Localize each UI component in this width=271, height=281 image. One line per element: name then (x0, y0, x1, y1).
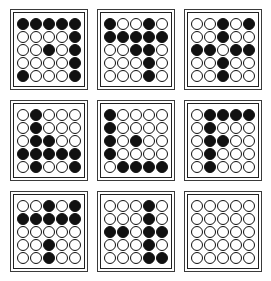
dot-cell[interactable] (17, 238, 30, 251)
dot-cell[interactable] (56, 147, 69, 160)
dot-cell[interactable] (243, 212, 256, 225)
dot-cell[interactable] (17, 30, 30, 43)
dot-cell[interactable] (117, 251, 130, 264)
dot-cell[interactable] (204, 56, 217, 69)
dot-cell[interactable] (30, 121, 43, 134)
dot-cell[interactable] (243, 134, 256, 147)
dot-cell[interactable] (243, 30, 256, 43)
dot-cell[interactable] (130, 251, 143, 264)
dot-cell[interactable] (30, 134, 43, 147)
dot-cell[interactable] (43, 212, 56, 225)
dot-cell[interactable] (230, 56, 243, 69)
dot-cell[interactable] (204, 43, 217, 56)
dot-cell[interactable] (143, 134, 156, 147)
panel-9[interactable] (184, 191, 262, 272)
dot-cell[interactable] (217, 108, 230, 121)
dot-cell[interactable] (191, 43, 204, 56)
dot-cell[interactable] (69, 199, 82, 212)
dot-cell[interactable] (143, 225, 156, 238)
dot-cell[interactable] (56, 30, 69, 43)
dot-cell[interactable] (143, 69, 156, 82)
dot-cell[interactable] (56, 134, 69, 147)
dot-cell[interactable] (56, 238, 69, 251)
dot-cell[interactable] (17, 199, 30, 212)
dot-cell[interactable] (17, 43, 30, 56)
dot-cell[interactable] (17, 69, 30, 82)
dot-cell[interactable] (191, 212, 204, 225)
dot-cell[interactable] (217, 134, 230, 147)
dot-cell[interactable] (117, 121, 130, 134)
dot-cell[interactable] (104, 225, 117, 238)
dot-cell[interactable] (104, 147, 117, 160)
dot-cell[interactable] (156, 43, 169, 56)
dot-cell[interactable] (56, 199, 69, 212)
dot-cell[interactable] (30, 56, 43, 69)
dot-cell[interactable] (243, 121, 256, 134)
dot-cell[interactable] (243, 225, 256, 238)
panel-7[interactable] (10, 191, 88, 272)
dot-cell[interactable] (104, 160, 117, 173)
dot-cell[interactable] (156, 69, 169, 82)
dot-cell[interactable] (17, 121, 30, 134)
dot-cell[interactable] (56, 56, 69, 69)
dot-cell[interactable] (130, 147, 143, 160)
dot-cell[interactable] (17, 56, 30, 69)
dot-cell[interactable] (43, 199, 56, 212)
dot-cell[interactable] (117, 108, 130, 121)
dot-cell[interactable] (217, 212, 230, 225)
dot-cell[interactable] (130, 30, 143, 43)
dot-cell[interactable] (17, 160, 30, 173)
dot-cell[interactable] (204, 30, 217, 43)
dot-cell[interactable] (230, 30, 243, 43)
dot-cell[interactable] (56, 108, 69, 121)
dot-cell[interactable] (43, 108, 56, 121)
dot-cell[interactable] (17, 108, 30, 121)
dot-cell[interactable] (117, 160, 130, 173)
dot-cell[interactable] (130, 134, 143, 147)
dot-cell[interactable] (230, 147, 243, 160)
dot-cell[interactable] (143, 238, 156, 251)
panel-8[interactable] (97, 191, 175, 272)
dot-cell[interactable] (230, 199, 243, 212)
dot-cell[interactable] (130, 121, 143, 134)
dot-cell[interactable] (30, 30, 43, 43)
dot-cell[interactable] (143, 212, 156, 225)
dot-cell[interactable] (43, 238, 56, 251)
dot-cell[interactable] (217, 147, 230, 160)
dot-cell[interactable] (56, 43, 69, 56)
dot-cell[interactable] (30, 147, 43, 160)
dot-cell[interactable] (243, 56, 256, 69)
dot-cell[interactable] (230, 238, 243, 251)
dot-cell[interactable] (143, 199, 156, 212)
dot-cell[interactable] (117, 30, 130, 43)
dot-cell[interactable] (43, 69, 56, 82)
dot-cell[interactable] (243, 43, 256, 56)
dot-cell[interactable] (217, 69, 230, 82)
dot-cell[interactable] (117, 225, 130, 238)
dot-cell[interactable] (156, 121, 169, 134)
dot-cell[interactable] (56, 160, 69, 173)
dot-cell[interactable] (30, 251, 43, 264)
dot-cell[interactable] (130, 69, 143, 82)
dot-cell[interactable] (204, 134, 217, 147)
dot-cell[interactable] (217, 160, 230, 173)
dot-cell[interactable] (204, 69, 217, 82)
dot-cell[interactable] (217, 199, 230, 212)
dot-cell[interactable] (69, 69, 82, 82)
dot-cell[interactable] (130, 238, 143, 251)
dot-cell[interactable] (230, 121, 243, 134)
dot-cell[interactable] (217, 43, 230, 56)
dot-cell[interactable] (143, 121, 156, 134)
dot-cell[interactable] (30, 212, 43, 225)
dot-cell[interactable] (56, 121, 69, 134)
dot-cell[interactable] (156, 199, 169, 212)
dot-cell[interactable] (69, 147, 82, 160)
dot-cell[interactable] (156, 238, 169, 251)
dot-cell[interactable] (30, 69, 43, 82)
dot-cell[interactable] (104, 43, 117, 56)
dot-cell[interactable] (69, 121, 82, 134)
panel-1[interactable] (10, 9, 88, 90)
dot-cell[interactable] (243, 251, 256, 264)
dot-cell[interactable] (117, 238, 130, 251)
dot-cell[interactable] (230, 225, 243, 238)
